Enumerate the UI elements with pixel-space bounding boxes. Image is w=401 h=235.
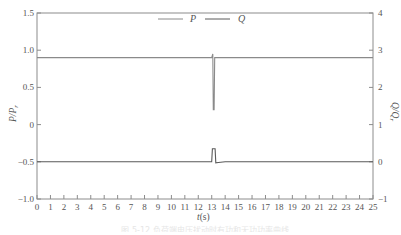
series-q-line (37, 149, 373, 163)
x-tick-label: 13 (207, 202, 217, 212)
x-tick-label: 3 (75, 202, 80, 212)
left-axis-title: P/Pr (8, 105, 20, 123)
x-tick-label: 2 (62, 202, 67, 212)
left-tick-label: −1.0 (18, 194, 35, 204)
x-tick-label: 14 (221, 202, 231, 212)
x-tick-label: 15 (234, 202, 244, 212)
x-tick-label: 18 (274, 202, 284, 212)
right-axis-ticks: −101234 (369, 8, 388, 204)
legend: P Q (158, 13, 246, 24)
x-tick-label: 9 (156, 202, 161, 212)
left-tick-label: 0.5 (23, 82, 35, 92)
x-tick-label: 1 (48, 202, 53, 212)
x-axis-title: t(s) (197, 212, 210, 223)
left-axis-ticks: −1.0−0.500.51.01.5 (18, 8, 41, 204)
series-layer (37, 54, 373, 163)
x-tick-label: 21 (315, 202, 324, 212)
x-tick-label: 12 (194, 202, 203, 212)
x-tick-label: 8 (142, 202, 147, 212)
x-tick-label: 5 (102, 202, 107, 212)
x-tick-label: 20 (301, 202, 311, 212)
x-tick-label: 10 (167, 202, 177, 212)
right-axis-title: Q/Qr (388, 102, 400, 121)
right-tick-label: 2 (378, 82, 383, 92)
x-tick-label: 0 (35, 202, 40, 212)
left-tick-label: −0.5 (18, 157, 35, 167)
left-tick-label: 0 (30, 120, 35, 130)
right-tick-label: 3 (378, 45, 383, 55)
legend-q-label: Q (238, 13, 246, 24)
x-tick-label: 17 (261, 202, 271, 212)
x-tick-label: 24 (355, 202, 365, 212)
x-tick-label: 11 (181, 202, 190, 212)
right-tick-label: 4 (378, 8, 383, 18)
chart: 0123456789101112131415161718192021222324… (0, 0, 401, 235)
x-tick-label: 4 (89, 202, 94, 212)
plot-frame (37, 13, 373, 199)
figure-caption: 图 5-12 负荷端电压扰动时有功和无功功率曲线 (60, 224, 350, 232)
x-tick-label: 7 (129, 202, 134, 212)
x-axis-ticks: 0123456789101112131415161718192021222324… (35, 195, 378, 212)
x-tick-label: 23 (342, 202, 352, 212)
right-tick-label: 0 (378, 157, 383, 167)
x-tick-label: 19 (288, 202, 298, 212)
right-tick-label: −1 (378, 194, 388, 204)
left-tick-label: 1.0 (23, 45, 35, 55)
x-tick-label: 25 (369, 202, 379, 212)
left-tick-label: 1.5 (23, 8, 35, 18)
x-tick-label: 22 (328, 202, 337, 212)
series-p-line (37, 54, 373, 110)
legend-p-label: P (189, 13, 196, 24)
right-tick-label: 1 (378, 120, 383, 130)
x-tick-label: 6 (115, 202, 120, 212)
x-tick-label: 16 (248, 202, 258, 212)
